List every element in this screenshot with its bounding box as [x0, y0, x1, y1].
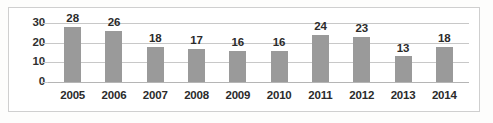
bar-slot: 18 — [135, 23, 176, 82]
bar-value-label: 16 — [273, 37, 286, 49]
y-axis-tick-label: 20 — [13, 37, 45, 49]
bar-value-label: 13 — [397, 43, 410, 55]
x-axis: 2005200620072008200920102011201220132014 — [48, 86, 469, 104]
bar[interactable]: 17 — [188, 49, 205, 82]
screenshot-root: 0102030 28261817161624231318 20052006200… — [0, 0, 493, 123]
x-axis-category-label: 2013 — [382, 86, 423, 104]
bar-value-label: 18 — [149, 33, 162, 45]
bar-value-label: 24 — [314, 21, 327, 33]
bar-slot: 16 — [258, 23, 299, 82]
bar-value-label: 28 — [66, 13, 79, 25]
bar-slot: 26 — [93, 23, 134, 82]
bar-value-label: 17 — [190, 35, 203, 47]
bar-value-label: 16 — [232, 37, 245, 49]
bar[interactable]: 13 — [395, 56, 412, 82]
y-axis-tick-label: 10 — [13, 57, 45, 69]
bar-value-label: 26 — [108, 17, 121, 29]
bar-slot: 16 — [217, 23, 258, 82]
bar-value-label: 23 — [355, 23, 368, 35]
bar-slot: 13 — [382, 23, 423, 82]
bar[interactable]: 26 — [105, 31, 122, 82]
x-axis-category-label: 2011 — [300, 86, 341, 104]
x-axis-category-label: 2009 — [217, 86, 258, 104]
x-axis-category-label: 2007 — [135, 86, 176, 104]
bar-slot: 23 — [341, 23, 382, 82]
x-axis-category-label: 2014 — [424, 86, 465, 104]
y-axis: 0102030 — [13, 8, 45, 111]
bar[interactable]: 16 — [229, 51, 246, 82]
x-axis-category-label: 2006 — [93, 86, 134, 104]
bar[interactable]: 24 — [312, 35, 329, 82]
y-axis-tick-mark — [42, 82, 48, 83]
bar[interactable]: 18 — [147, 47, 164, 82]
chart-plot-wrapper: 0102030 28261817161624231318 20052006200… — [9, 8, 479, 111]
bar-slot: 24 — [300, 23, 341, 82]
plot-area: 28261817161624231318 — [48, 23, 469, 82]
bar[interactable]: 16 — [271, 51, 288, 82]
x-axis-category-label: 2005 — [52, 86, 93, 104]
bar[interactable]: 23 — [353, 37, 370, 82]
bar-slot: 28 — [52, 23, 93, 82]
bar[interactable]: 28 — [64, 27, 81, 82]
y-axis-tick-label: 30 — [13, 17, 45, 29]
y-axis-tick-label: 0 — [13, 76, 45, 88]
bar-slot: 17 — [176, 23, 217, 82]
bar-value-label: 18 — [438, 33, 451, 45]
x-axis-category-label: 2012 — [341, 86, 382, 104]
bar-series: 28261817161624231318 — [48, 23, 469, 82]
bar[interactable]: 18 — [436, 47, 453, 82]
bar-chart: 0102030 28261817161624231318 20052006200… — [8, 7, 480, 112]
x-axis-category-label: 2010 — [258, 86, 299, 104]
x-axis-category-label: 2008 — [176, 86, 217, 104]
bar-slot: 18 — [424, 23, 465, 82]
axis-baseline — [48, 82, 469, 83]
